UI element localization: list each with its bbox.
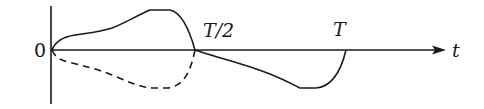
period-label: T xyxy=(333,18,347,40)
solid-curve-second-half xyxy=(195,50,346,88)
dashed-curve-first-half xyxy=(52,50,195,88)
time-axis-label: t xyxy=(452,39,460,61)
origin-label: 0 xyxy=(34,39,46,61)
waveform-diagram: 0 T/2 T t xyxy=(0,0,484,109)
half-period-label: T/2 xyxy=(203,19,234,41)
solid-curve-first-half xyxy=(52,10,195,50)
